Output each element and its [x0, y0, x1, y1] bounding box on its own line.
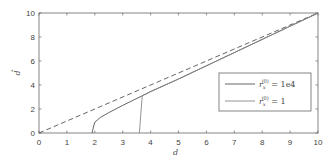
x-tick-label: 8	[260, 138, 265, 147]
line-chart: 0123456789100246810dd̂ rx(0) = 1e4rx(0) …	[0, 0, 336, 160]
y-tick-label: 2	[31, 105, 36, 114]
y-tick-label: 10	[26, 9, 35, 18]
y-tick-label: 8	[31, 33, 36, 42]
x-tick-label: 5	[176, 138, 181, 147]
legend: rx(0) = 1e4rx(0) = 1	[219, 73, 311, 111]
x-tick-label: 10	[314, 138, 323, 147]
x-tick-label: 9	[288, 138, 293, 147]
x-tick-label: 1	[65, 138, 70, 147]
y-axis-label: d̂	[11, 69, 22, 75]
legend-label: rx(0) = 1	[259, 95, 286, 107]
y-tick-label: 0	[31, 129, 36, 138]
x-tick-label: 3	[120, 138, 125, 147]
x-axis-label: d	[173, 148, 178, 157]
x-tick-label: 4	[148, 138, 153, 147]
x-tick-label: 7	[232, 138, 237, 147]
x-tick-label: 6	[204, 138, 209, 147]
y-tick-label: 6	[31, 57, 36, 66]
y-tick-label: 4	[31, 81, 36, 90]
x-tick-label: 2	[93, 138, 98, 147]
legend-label: rx(0) = 1e4	[259, 78, 295, 90]
x-tick-label: 0	[37, 138, 42, 147]
